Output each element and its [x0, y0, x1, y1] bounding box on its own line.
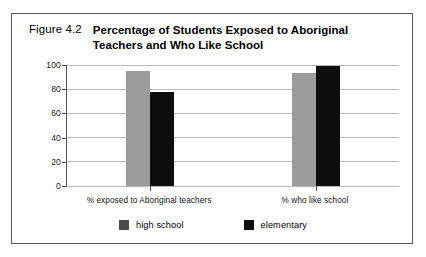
chart-plot-area	[66, 65, 399, 187]
chart-plot-wrapper: 020406080100 % exposed to Aboriginal tea…	[40, 65, 398, 197]
bar-high-school	[126, 71, 150, 186]
page-title: Percentage of Students Exposed to Aborig…	[93, 23, 399, 52]
figure-number: Figure 4.2	[29, 23, 82, 35]
gridline	[67, 65, 399, 66]
bar-elementary	[150, 92, 174, 186]
gridline	[67, 161, 399, 162]
y-axis: 020406080100	[40, 65, 61, 186]
bar-group	[292, 65, 340, 186]
gridline	[67, 89, 399, 90]
legend-item-high-school[interactable]: high school	[119, 220, 184, 230]
figure-title-block: Figure 4.2 Percentage of Students Expose…	[29, 23, 399, 52]
bar-group	[126, 65, 174, 186]
figure-frame: Figure 4.2 Percentage of Students Expose…	[11, 13, 413, 244]
x-axis-tick-mark	[150, 186, 151, 191]
x-axis-category-label: % who like school	[282, 196, 349, 205]
chart-legend: high schoolelementary	[12, 220, 414, 230]
gridline	[67, 113, 399, 114]
x-axis-tick-mark	[316, 186, 317, 191]
y-axis-tick-label: 20	[51, 157, 61, 167]
legend-label: high school	[136, 220, 184, 230]
y-axis-tick-label: 60	[51, 108, 61, 118]
bar-high-school	[292, 73, 316, 186]
x-axis: % exposed to Aboriginal teachers% who li…	[66, 196, 398, 212]
x-axis-category-label: % exposed to Aboriginal teachers	[87, 196, 212, 205]
legend-swatch-icon	[244, 220, 254, 230]
legend-item-elementary[interactable]: elementary	[244, 220, 307, 230]
y-axis-tick-label: 80	[51, 84, 61, 94]
legend-swatch-icon	[119, 220, 129, 230]
gridline	[67, 137, 399, 138]
bar-elementary	[316, 66, 340, 186]
y-axis-tick-label: 100	[46, 60, 61, 70]
y-axis-tick-label: 0	[56, 181, 61, 191]
legend-label: elementary	[261, 220, 307, 230]
y-axis-tick-label: 40	[51, 133, 61, 143]
gridline	[67, 186, 399, 187]
